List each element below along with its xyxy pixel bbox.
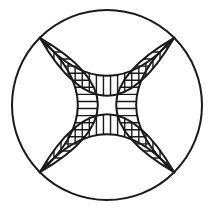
medallion-figure (0, 0, 220, 222)
figure-root (0, 0, 220, 222)
